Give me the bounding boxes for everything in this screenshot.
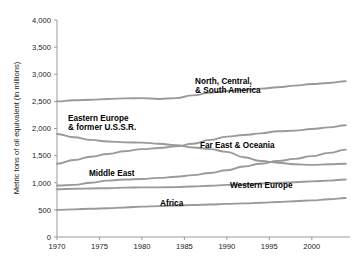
x-tick-label: 1995 (261, 242, 278, 251)
series-inline-label: Africa (160, 199, 184, 208)
x-tick-label: 1975 (91, 242, 108, 251)
series-inline-label-line: Western Europe (230, 181, 293, 190)
series-inline-label-line: North, Central, (195, 77, 252, 86)
y-tick-label: 0 (47, 233, 51, 242)
x-axis-ticks: 1970197519801985199019952000 (49, 237, 321, 251)
y-tick-label: 2,500 (32, 97, 51, 106)
y-axis-title: Metric tons of oil equivalent (in millio… (12, 61, 21, 194)
series-inline-label-line: Africa (160, 199, 184, 208)
y-axis-title-label: Metric tons of oil equivalent (in millio… (12, 61, 21, 194)
x-tick-label: 1970 (49, 242, 66, 251)
y-tick-label: 1,000 (32, 179, 51, 188)
series-line (57, 198, 346, 210)
x-tick-label: 1980 (133, 242, 150, 251)
y-tick-label: 2,000 (32, 124, 51, 133)
series-inline-label-line: Far East & Oceania (200, 141, 275, 150)
x-tick-label: 1985 (176, 242, 193, 251)
x-tick-label: 1990 (218, 242, 235, 251)
y-tick-label: 3,000 (32, 70, 51, 79)
series-inline-label: Western Europe (230, 181, 293, 190)
series-inline-label: Eastern Europe& former U.S.S.R. (68, 114, 136, 132)
chart-container: Metric tons of oil equivalent (in millio… (0, 0, 357, 266)
series-inline-label: Middle East (89, 169, 135, 178)
y-tick-label: 500 (38, 206, 51, 215)
y-tick-label: 3,500 (32, 43, 51, 52)
line-chart: Metric tons of oil equivalent (in millio… (0, 0, 357, 266)
series-inline-label-line: Middle East (89, 169, 135, 178)
x-tick-label: 2000 (303, 242, 320, 251)
y-tick-label: 1,500 (32, 151, 51, 160)
y-axis-ticks: 05001,0001,5002,0002,5003,0003,5004,000 (32, 16, 57, 242)
series-inline-label-line: & former U.S.S.R. (68, 123, 136, 132)
series-inline-label-line: Eastern Europe (68, 114, 129, 123)
series-inline-label-line: & South America (195, 86, 261, 95)
y-tick-label: 4,000 (32, 16, 51, 25)
series-inline-label: Far East & Oceania (200, 141, 275, 150)
series-inline-label: North, Central,& South America (195, 77, 261, 95)
